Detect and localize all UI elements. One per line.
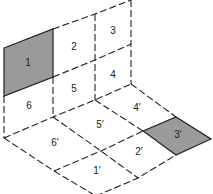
label-panel-2prime: 2′	[135, 146, 143, 157]
label-panel-5: 5	[71, 83, 77, 94]
label-panel-5prime: 5′	[96, 119, 104, 130]
label-panel-4: 4	[110, 69, 116, 80]
label-panel-3: 3	[110, 25, 116, 36]
label-panel-3prime: 3′	[174, 129, 182, 140]
folded-grid-diagram: 1 2 3 4 5 6 1′ 2′ 3′ 4′ 5′ 6′	[0, 0, 213, 194]
label-panel-6prime: 6′	[51, 137, 59, 148]
label-panel-2: 2	[71, 41, 77, 52]
label-panel-4prime: 4′	[133, 102, 141, 113]
label-panel-1: 1	[25, 57, 31, 68]
label-panel-1prime: 1′	[93, 165, 101, 176]
label-panel-6: 6	[26, 100, 32, 111]
